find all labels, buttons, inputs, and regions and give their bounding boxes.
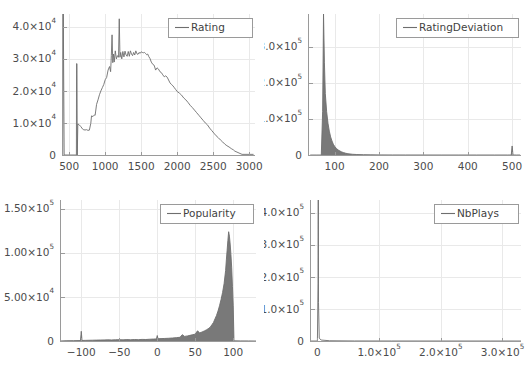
nb_plays-legend-label: NbPlays [457, 207, 499, 219]
rating_deviation-xtick-label: 300 [413, 160, 433, 172]
rating-deviation-plot: 01.0×1052.0×1053.0×105100200300400500 Ra… [264, 0, 528, 186]
nb_plays-xtick-label: 1.0×105 [357, 341, 400, 358]
panel-nb-plays: 01.0×1052.0×1053.0×1054.0×10501.0×1052.0… [264, 186, 528, 372]
nb_plays-ytick-label: 0 [297, 335, 304, 347]
popularity-xtick-label: −50 [108, 346, 130, 358]
rating-ytick-label: 3.0×104 [13, 48, 57, 65]
histogram-grid: 01.0×1042.0×1043.0×1044.0×10450010001500… [0, 0, 528, 372]
rating-legend[interactable]: Rating [169, 19, 253, 38]
rating_deviation-xtick-label: 400 [458, 160, 478, 172]
rating-deviation-ticklabels: 01.0×1052.0×1053.0×105100200300400500 [264, 35, 522, 172]
popularity-xtick-label: 0 [154, 346, 161, 358]
panel-rating-deviation: 01.0×1052.0×1053.0×105100200300400500 Ra… [264, 0, 528, 186]
popularity-ytick-label: 0 [47, 335, 54, 347]
nb_plays-xtick-label: 2.0×105 [419, 341, 462, 358]
rating-plot: 01.0×1042.0×1043.0×1044.0×10450010001500… [0, 0, 264, 186]
popularity-ytick-label: 1.00×105 [4, 242, 54, 259]
rating-xtick-label: 2500 [200, 160, 227, 172]
rating_deviation-ytick-label: 3.0×105 [264, 35, 302, 52]
popularity-plot: 05.00×1041.00×1051.50×105−100−50050100 P… [0, 186, 264, 372]
rating-legend-label: Rating [191, 21, 225, 33]
rating_deviation-ytick-label: 0 [295, 149, 302, 161]
rating-xtick-label: 1500 [128, 160, 155, 172]
nb-plays-plot: 01.0×1052.0×1053.0×1054.0×10501.0×1052.0… [264, 186, 528, 372]
rating_deviation-xtick-label: 100 [325, 160, 345, 172]
rating-ytick-label: 0 [49, 149, 56, 161]
popularity-legend-label: Popularity [183, 207, 236, 219]
popularity-ytick-label: 5.00×104 [4, 286, 55, 303]
nb-plays-ticklabels: 01.0×1052.0×1053.0×1054.0×10501.0×1052.0… [264, 202, 524, 358]
rating_deviation-ytick-label: 2.0×105 [264, 71, 302, 88]
nb_plays-ytick-label: 2.0×105 [264, 266, 304, 283]
rating_deviation-xtick-label: 500 [502, 160, 522, 172]
popularity-xtick-label: −100 [67, 346, 96, 358]
rating-ytick-label: 2.0×104 [13, 80, 57, 97]
nb_plays-xtick-label: 3.0×105 [481, 341, 524, 358]
rating-xtick-label: 1000 [92, 160, 119, 172]
panel-popularity: 05.00×1041.00×1051.50×105−100−50050100 P… [0, 186, 264, 372]
rating-ticklabels: 01.0×1042.0×1043.0×1044.0×10450010001500… [13, 16, 263, 172]
popularity-xtick-label: 100 [223, 346, 243, 358]
nb_plays-ytick-label: 1.0×105 [264, 298, 304, 315]
nb_plays-xtick-label: 0 [314, 346, 321, 358]
popularity-xtick-label: 50 [189, 346, 202, 358]
popularity-ytick-label: 1.50×105 [4, 198, 54, 215]
rating-xtick-label: 3000 [236, 160, 263, 172]
rating-ytick-label: 4.0×104 [13, 16, 57, 33]
rating-xtick-label: 2000 [164, 160, 191, 172]
nb_plays-ytick-label: 4.0×105 [264, 202, 304, 219]
rating-ytick-label: 1.0×104 [13, 112, 57, 129]
nb_plays-ytick-label: 3.0×105 [264, 234, 304, 251]
panel-rating: 01.0×1042.0×1043.0×1044.0×10450010001500… [0, 0, 264, 186]
rating_deviation-legend-label: RatingDeviation [419, 21, 503, 33]
rating-deviation-legend[interactable]: RatingDeviation [397, 19, 519, 38]
rating_deviation-xtick-label: 200 [369, 160, 389, 172]
rating_deviation-ytick-label: 1.0×105 [264, 108, 302, 125]
rating-xtick-label: 500 [59, 160, 79, 172]
popularity-legend[interactable]: Popularity [161, 205, 254, 224]
nb-plays-legend[interactable]: NbPlays [435, 205, 519, 224]
